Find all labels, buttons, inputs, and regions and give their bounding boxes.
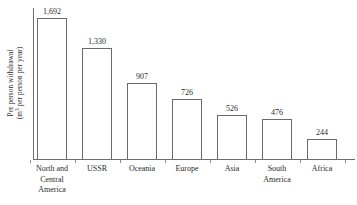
y-axis-title-line-2: (m3 per person per year) — [16, 47, 25, 120]
bar — [217, 115, 247, 159]
x-axis-tick — [255, 160, 256, 163]
x-axis-tick — [300, 160, 301, 163]
bar — [82, 48, 112, 159]
category-label: North and Central America — [27, 164, 77, 196]
category-label: USSR — [72, 164, 122, 175]
bar — [172, 99, 202, 160]
category-label: Asia — [207, 164, 257, 175]
y-axis-title-line-2-post: per person per year) — [16, 47, 24, 109]
category-label: Europe — [162, 164, 212, 175]
x-axis-tick — [165, 160, 166, 163]
category-label: South America — [252, 164, 302, 185]
x-axis-tick — [120, 160, 121, 163]
bar-value-label: 476 — [255, 108, 299, 117]
y-axis-title-line-1: Per person withdrawal — [7, 50, 16, 117]
x-axis-tick — [75, 160, 76, 163]
bar — [127, 83, 157, 159]
x-axis-tick — [345, 160, 346, 163]
bar — [262, 119, 292, 159]
x-axis-tick — [210, 160, 211, 163]
y-axis-title: Per person withdrawal (m3 per person per… — [2, 18, 30, 148]
y-axis-title-line-2-pre: (m — [16, 111, 24, 119]
bar-value-label: 726 — [165, 88, 209, 97]
bar-value-label: 907 — [120, 72, 164, 81]
category-label: Africa — [297, 164, 347, 175]
bar — [307, 139, 337, 159]
bar — [37, 18, 67, 159]
x-axis-tick — [30, 160, 31, 163]
bar-value-label: 526 — [210, 104, 254, 113]
plot-area: 1,6921,330907726526476244 — [33, 0, 357, 160]
bar-value-label: 1,330 — [75, 37, 119, 46]
bar-value-label: 1,692 — [30, 7, 74, 16]
y-axis-title-superscript: 3 — [14, 108, 20, 111]
category-label: Oceania — [117, 164, 167, 175]
bar-value-label: 244 — [300, 128, 344, 137]
bar-chart: Per person withdrawal (m3 per person per… — [0, 0, 357, 205]
